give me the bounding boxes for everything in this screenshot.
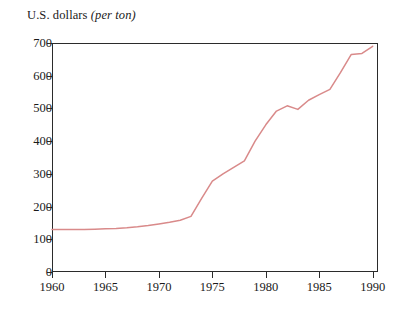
x-tick-mark: [105, 272, 106, 278]
x-tick-mark: [373, 272, 374, 278]
x-tick-mark: [266, 272, 267, 278]
x-tick-label: 1970: [136, 281, 182, 294]
x-tick-label: 1990: [350, 281, 396, 294]
data-line-series-0: [52, 46, 373, 229]
x-tick-mark: [319, 272, 320, 278]
x-tick-label: 1980: [243, 281, 289, 294]
x-tick-label: 1960: [29, 281, 75, 294]
plot-area: [52, 43, 378, 272]
x-tick-mark: [212, 272, 213, 278]
x-tick-mark: [159, 272, 160, 278]
chart-figure: U.S. dollars (per ton) 01002003004005006…: [0, 0, 405, 309]
x-tick-label: 1985: [296, 281, 342, 294]
x-tick-label: 1965: [82, 281, 128, 294]
x-tick-mark: [52, 272, 53, 278]
x-tick-label: 1975: [189, 281, 235, 294]
